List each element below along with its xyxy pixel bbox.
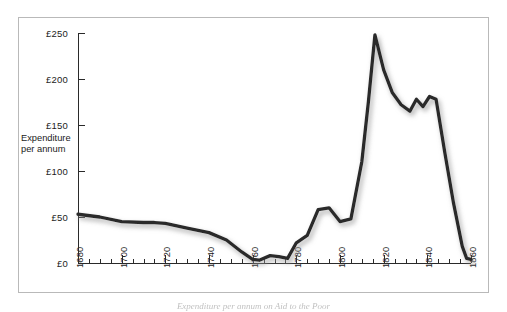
- y-axis-ticks: [78, 34, 85, 264]
- chart-plot: [0, 0, 507, 312]
- axis-lines: [78, 33, 471, 263]
- figure-container: £250 £200 £150 £100 £50 £0 Expenditure p…: [0, 0, 507, 312]
- figure-caption: Expenditure per annum on Aid to the Poor: [0, 301, 507, 312]
- series-line-expenditure: [78, 35, 471, 260]
